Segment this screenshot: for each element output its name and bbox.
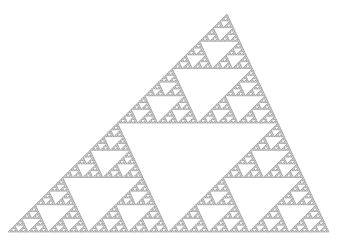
sierpinski-path bbox=[8, 14, 329, 232]
sierpinski-triangle bbox=[0, 0, 338, 245]
fractal-paths bbox=[8, 14, 329, 232]
